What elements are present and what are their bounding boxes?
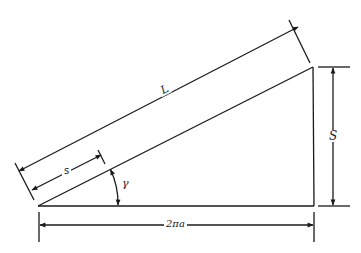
label-partial-length: s <box>62 166 71 176</box>
label-base: 2πa <box>164 219 187 229</box>
l-dimension-line <box>19 27 298 171</box>
triangle-height <box>313 67 314 206</box>
triangle-hypotenuse <box>38 67 313 206</box>
s-extension-right <box>98 150 105 164</box>
label-angle: γ <box>120 178 131 189</box>
label-height: S <box>327 130 339 142</box>
l-extension-right <box>289 20 310 63</box>
diagram-canvas: L s γ S 2πa <box>0 0 361 253</box>
triangle-diagram <box>0 0 361 253</box>
angle-arc <box>111 170 119 206</box>
